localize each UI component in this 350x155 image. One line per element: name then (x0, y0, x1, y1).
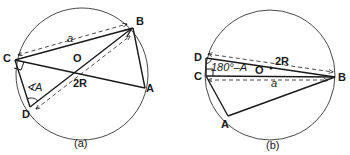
side-label-a-a: a (67, 32, 73, 44)
caption-b: (b) (266, 139, 279, 151)
point-label-d-a: D (22, 108, 30, 120)
point-label-a-a: A (146, 82, 154, 94)
figure-a: C B A D O a 2R ∢A (a) (3, 8, 154, 149)
point-label-c-b: C (194, 70, 202, 82)
center-label-o-b: O (255, 64, 264, 76)
figure-b: D C B A O a 2R 180°–A (b) (194, 10, 346, 151)
side-ca-b (206, 76, 228, 116)
side-ba-a (133, 28, 145, 88)
point-label-c-a: C (3, 52, 11, 64)
point-label-a-b: A (221, 118, 229, 130)
dashed-vector-2r-a (36, 36, 130, 109)
side-label-a-b: a (271, 77, 277, 89)
point-label-d-b: D (194, 51, 202, 63)
caption-a: (a) (74, 137, 87, 149)
point-label-b-a: B (136, 15, 144, 27)
diameter-label-a: 2R (73, 77, 87, 89)
diagram-canvas: C B A D O a 2R ∢A (a) D C B A O a 2R 180… (0, 0, 350, 155)
angle-label-a: ∢A (26, 81, 42, 93)
diameter-db-a (30, 29, 131, 107)
point-label-b-b: B (338, 71, 346, 83)
side-ab-b (228, 77, 335, 116)
center-label-o-a: O (73, 52, 82, 64)
center-dot-b (270, 67, 273, 70)
angle-label-b: 180°–A (211, 61, 247, 73)
diameter-label-b: 2R (275, 55, 289, 67)
